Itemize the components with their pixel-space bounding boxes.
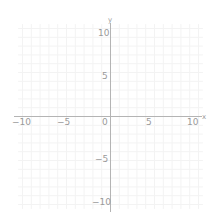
x-tick-label: 10 (187, 117, 199, 127)
x-tick-label: −5 (57, 117, 70, 127)
y-tick-label: 10 (98, 28, 110, 38)
x-tick-label: 5 (146, 117, 152, 127)
origin-label: 0 (102, 117, 108, 127)
x-axis-label: x (202, 113, 206, 121)
y-tick-label: 5 (102, 71, 108, 81)
y-tick-label: −10 (92, 197, 111, 207)
y-axis-label: y (108, 16, 112, 24)
x-tick-label: −10 (12, 117, 31, 127)
y-tick-label: −5 (95, 154, 108, 164)
coordinate-plane: x y −10 −5 0 5 10 10 5 −5 −10 (0, 0, 217, 224)
